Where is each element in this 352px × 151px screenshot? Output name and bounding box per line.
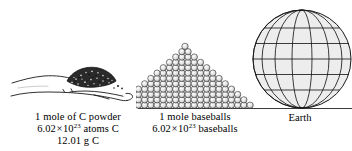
multiplication-sign: × xyxy=(171,123,178,134)
baseball xyxy=(182,43,188,49)
caption-line-2: 6.02×1023 baseballs xyxy=(136,123,254,135)
carbon-powder-mound xyxy=(67,67,123,89)
multiplication-sign: × xyxy=(56,123,63,134)
mole-comparison-figure: 1 mole of C powder 6.02×1023 atoms C 12.… xyxy=(0,0,352,151)
baseball xyxy=(216,75,222,81)
baseball xyxy=(191,54,197,60)
power-exponent: 23 xyxy=(74,121,81,128)
caption-baseballs: 1 mole baseballs 6.02×1023 baseballs xyxy=(136,111,254,135)
baseball xyxy=(154,70,160,76)
baseball xyxy=(148,75,154,81)
unit-label: atoms C xyxy=(83,123,118,134)
baseball xyxy=(197,59,203,65)
globe-wireframe-illustration xyxy=(248,0,352,110)
baseball xyxy=(222,81,228,87)
baseball xyxy=(210,70,216,76)
avogadro-coefficient: 6.02 xyxy=(152,123,171,134)
power-exponent: 23 xyxy=(189,121,196,128)
hand-with-carbon-powder-illustration xyxy=(8,0,148,110)
baseball-pyramid-illustration xyxy=(136,0,254,110)
baseball xyxy=(173,54,179,60)
baseball xyxy=(160,65,166,71)
unit-label: baseballs xyxy=(198,123,237,134)
power-base: 10 xyxy=(63,123,74,134)
baseball xyxy=(166,59,172,65)
caption-line-2: 6.02×1023 atoms C xyxy=(8,123,148,135)
caption-carbon-powder: 1 mole of C powder 6.02×1023 atoms C 12.… xyxy=(8,111,148,146)
caption-line-3: 12.01 g C xyxy=(8,135,148,147)
baseball xyxy=(204,65,210,71)
baseball xyxy=(136,86,142,92)
caption-line-1: Earth xyxy=(248,112,352,124)
avogadro-coefficient: 6.02 xyxy=(37,123,56,134)
baseball xyxy=(241,97,247,103)
baseball xyxy=(228,86,234,92)
panel-carbon-powder: 1 mole of C powder 6.02×1023 atoms C 12.… xyxy=(8,0,148,151)
power-base: 10 xyxy=(178,123,189,134)
caption-earth: Earth xyxy=(248,112,352,124)
baseball xyxy=(142,81,148,87)
panel-baseballs: 1 mole baseballs 6.02×1023 baseballs xyxy=(136,0,254,151)
panel-earth: Earth xyxy=(248,0,352,151)
baseball xyxy=(235,91,241,97)
